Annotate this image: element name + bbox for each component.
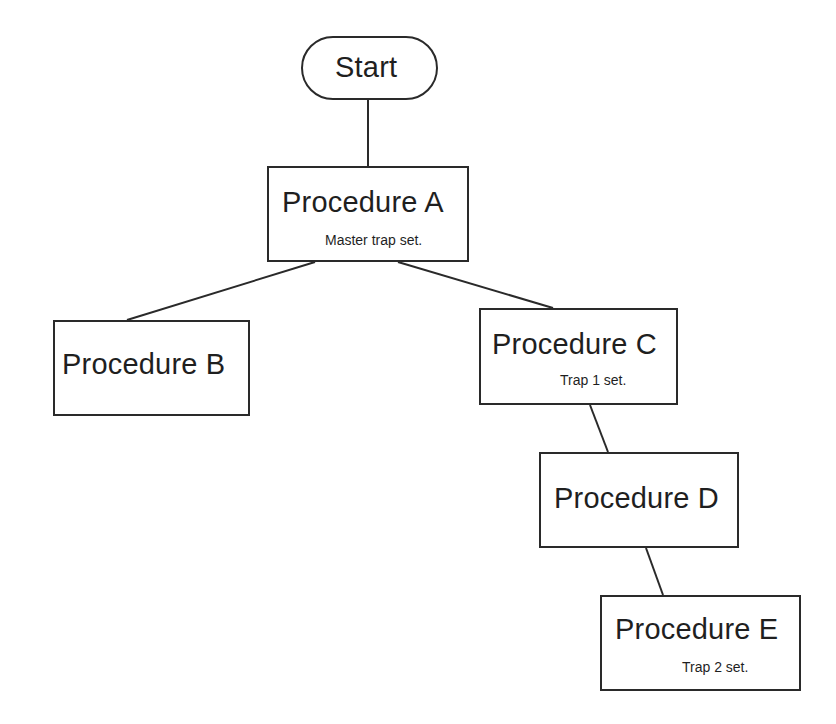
node-procedure-b-label: Procedure B [62,348,225,381]
node-procedure-d: Procedure D [539,452,739,548]
node-procedure-c: Procedure C Trap 1 set. [479,308,678,405]
edge-c-to-d [590,405,608,452]
edge-d-to-e [646,548,663,595]
node-procedure-a: Procedure A Master trap set. [267,166,469,262]
node-start: Start [301,36,438,100]
node-procedure-a-note: Master trap set. [325,232,422,248]
edge-a-to-c [398,262,553,308]
node-procedure-e-note: Trap 2 set. [682,659,748,675]
node-procedure-d-label: Procedure D [554,482,719,515]
edge-a-to-b [127,262,315,320]
node-procedure-a-label: Procedure A [282,186,444,219]
node-procedure-e: Procedure E Trap 2 set. [600,595,801,691]
node-procedure-e-label: Procedure E [615,613,778,646]
node-start-label: Start [335,51,397,84]
node-procedure-b: Procedure B [53,320,250,416]
node-procedure-c-label: Procedure C [492,328,657,361]
node-procedure-c-note: Trap 1 set. [560,372,626,388]
